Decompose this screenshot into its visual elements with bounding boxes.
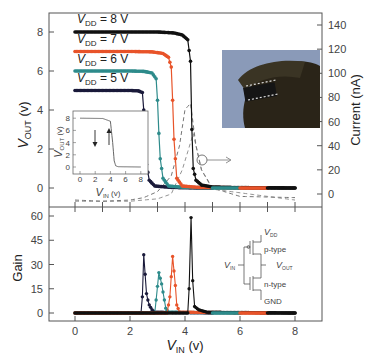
figure: 02468020406080100120140 01530456002468 V…: [0, 0, 376, 363]
x-tick-label: 4: [182, 325, 188, 337]
inverter-schematic: [238, 235, 266, 300]
inset-plot: 0246802468VIN (v)VOUT (v): [52, 111, 148, 199]
schematic-vin-label: VIN: [224, 260, 235, 271]
y2-tick-label: 100: [328, 67, 346, 79]
y2-tick-label: 0: [328, 188, 334, 200]
schematic-ptype-label: p-type: [264, 245, 287, 254]
y-tick-label: 4: [37, 104, 43, 116]
y2-tick-label: 60: [328, 116, 340, 128]
inset-x-tick: 0: [78, 175, 83, 184]
x-tick-label: 8: [292, 325, 298, 337]
gain-tick-label: 60: [31, 210, 43, 222]
current-axis-indicator: [197, 155, 231, 165]
inset-y-tick: 0: [66, 163, 71, 172]
y-tick-label: 2: [37, 143, 43, 155]
inset-x-tick: 8: [139, 175, 144, 184]
y2-tick-label: 20: [328, 164, 340, 176]
gain-tick-label: 0: [37, 307, 43, 319]
inset-y-tick: 6: [66, 126, 71, 135]
inset-x-tick: 2: [93, 175, 98, 184]
legend-vdd-6: VDD = 6 V: [77, 52, 128, 68]
y2-tick-label: 40: [328, 140, 340, 152]
y-axis-title-vout: VOUT (v): [15, 101, 33, 148]
legend: VDD = 8 V VDD = 7 V VDD = 6 V VDD = 5 V: [77, 12, 128, 87]
schematic-ntype-label: n-type: [264, 280, 287, 289]
legend-vdd-5: VDD = 5 V: [77, 71, 128, 87]
y-tick-label: 0: [37, 182, 43, 194]
bottom-axes: 01530456002468: [31, 210, 298, 337]
gain-tick-label: 15: [31, 283, 43, 295]
y-tick-label: 6: [37, 65, 43, 77]
legend-vdd-7: VDD = 7 V: [77, 32, 128, 48]
y-tick-label: 8: [37, 26, 43, 38]
y2-tick-label: 80: [328, 91, 340, 103]
schematic-vdd-label: VDD: [264, 227, 278, 238]
inset-y-tick: 2: [66, 151, 71, 160]
x-tick-label: 0: [72, 325, 78, 337]
schematic-gnd-label: GND: [264, 297, 282, 306]
y-axis-title-current: Current (nA): [348, 74, 363, 146]
device-photo: [222, 50, 320, 128]
x-tick-label: 2: [127, 325, 133, 337]
schematic-labels: VDD p-type VIN VOUT n-type GND: [224, 227, 293, 306]
legend-vdd-8: VDD = 8 V: [77, 12, 128, 28]
inset-y-tick: 4: [66, 139, 71, 148]
x-axis-title-vin: VIN (v): [166, 337, 203, 355]
y2-tick-label: 120: [328, 43, 346, 55]
inset-y-tick: 8: [66, 114, 71, 123]
gain-tick-label: 30: [31, 259, 43, 271]
schematic-vout-label: VOUT: [276, 260, 293, 271]
gain-curve: [75, 273, 240, 313]
inset-x-tick: 4: [108, 175, 113, 184]
y2-tick-label: 140: [328, 19, 346, 31]
gain-tick-label: 45: [31, 234, 43, 246]
y-axis-title-gain: Gain: [10, 254, 25, 281]
inset-y-label: VOUT (v): [52, 126, 65, 158]
x-tick-label: 6: [237, 325, 243, 337]
inset-x-label: VIN (v): [96, 186, 121, 199]
inset-x-tick: 6: [123, 175, 128, 184]
